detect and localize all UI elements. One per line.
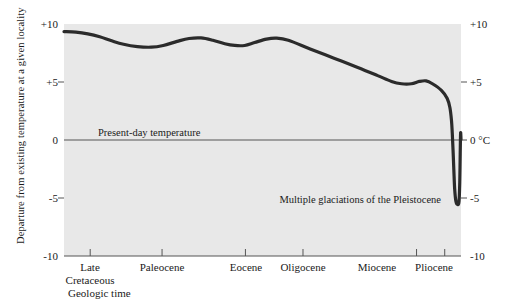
y-tick-label-right-0: 0 °C <box>470 134 490 146</box>
y-tick-label-right-minus10: -10 <box>470 250 485 262</box>
y-tick-label-left-minus10: -10 <box>43 250 58 262</box>
x-label-late-cretaceous-line1: Late <box>80 261 100 273</box>
pleistocene-glaciations-label: Multiple glaciations of the Pleistocene <box>279 194 441 205</box>
x-label-miocene: Miocene <box>358 261 397 273</box>
y-tick-label-right-5: +5 <box>470 76 482 88</box>
x-axis-title: Geologic time <box>68 287 131 299</box>
x-label-pliocene: Pliocene <box>415 261 453 273</box>
x-label-late-cretaceous-line2: Cretaceous <box>66 274 115 286</box>
chart-figure: Departure from existing temperature at a… <box>0 0 505 308</box>
y-tick-label-left-minus5: -5 <box>49 192 59 204</box>
y-tick-label-right-minus5: -5 <box>470 192 480 204</box>
y-tick-label-left-10: +10 <box>41 18 59 30</box>
temperature-departure-chart: Departure from existing temperature at a… <box>0 0 505 308</box>
x-label-eocene: Eocene <box>230 261 262 273</box>
x-label-paleocene: Paleocene <box>140 261 185 273</box>
y-axis-title: Departure from existing temperature at a… <box>15 7 26 244</box>
present-day-temperature-label: Present-day temperature <box>98 127 201 138</box>
y-tick-label-left-5: +5 <box>46 76 58 88</box>
y-axis-left-ticks <box>58 82 64 198</box>
y-tick-label-left-0: 0 <box>53 134 59 146</box>
x-label-oligocene: Oligocene <box>280 261 325 273</box>
y-tick-label-right-10: +10 <box>470 18 488 30</box>
